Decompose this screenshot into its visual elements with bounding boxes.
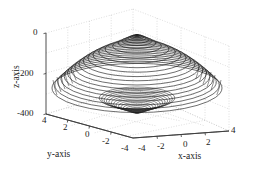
x-axis-title: x-axis [178,152,201,162]
floor-projection-contours [99,87,175,114]
x-tick-label-minus2: -2 [157,142,165,151]
y-tick-label-0: 0 [85,130,90,139]
x-tick-label-4: 4 [231,126,236,135]
x-tick-label-0: 0 [183,140,188,149]
figure-3d-contour-plot: 0 -200 -400 4 2 0 -2 -4 -4 -2 0 2 4 z-ax… [0,0,255,174]
z-tick-label-0: 0 [33,28,38,37]
y-tick-label-minus2: -2 [102,137,110,146]
y-tick-label-2: 2 [63,123,68,132]
box-outline [46,114,229,138]
y-tick-label-minus4: -4 [121,144,129,153]
z-tick-label-minus400: -400 [17,109,34,118]
surface-contours [52,35,222,113]
z-axis-title: z-axis [12,65,22,88]
y-tick-label-4: 4 [42,116,47,125]
x-tick-label-2: 2 [206,138,211,147]
y-axis-title: y-axis [47,150,70,160]
x-tick-label-minus4: -4 [138,144,146,153]
